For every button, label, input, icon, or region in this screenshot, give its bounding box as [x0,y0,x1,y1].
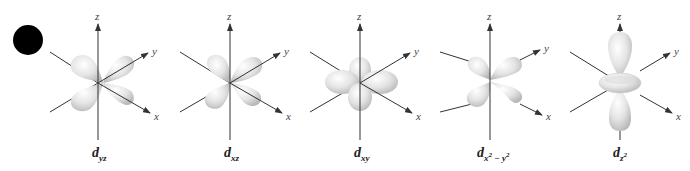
orbital-dxz: z y x [170,0,300,145]
y-axis-label: y [413,45,419,57]
label-dxy: dxy [354,145,370,163]
z-axis-label: z [616,10,622,22]
x-axis-label: x [675,110,681,122]
orbital-dxy: z y x [300,0,430,145]
orbital-dx2-y2: z y x [430,0,560,145]
y-axis-label: y [151,45,157,57]
z-axis-label: z [94,10,100,22]
x-axis-label: x [285,110,291,122]
x-axis-label: x [415,110,421,122]
orbital-dz2: z y x [560,0,690,145]
y-axis-label: y [673,45,679,57]
orbital-dyz: z y x [38,0,168,145]
z-axis-label: z [356,10,362,22]
x-axis-label: x [153,110,159,122]
z-axis-label: z [486,10,492,22]
y-axis-label: y [283,45,289,57]
y-axis-label: y [543,42,549,54]
d-orbitals-figure: z y x dyz z y x dxz z y x dxy [0,0,690,171]
label-dxz: dxz [224,145,239,163]
label-dz2: dz2 [613,145,627,163]
label-dyz: dyz [92,145,107,163]
z-axis-label: z [226,10,232,22]
label-dx2-y2: dx2 − y2 [477,145,509,163]
x-axis-label: x [545,110,551,122]
